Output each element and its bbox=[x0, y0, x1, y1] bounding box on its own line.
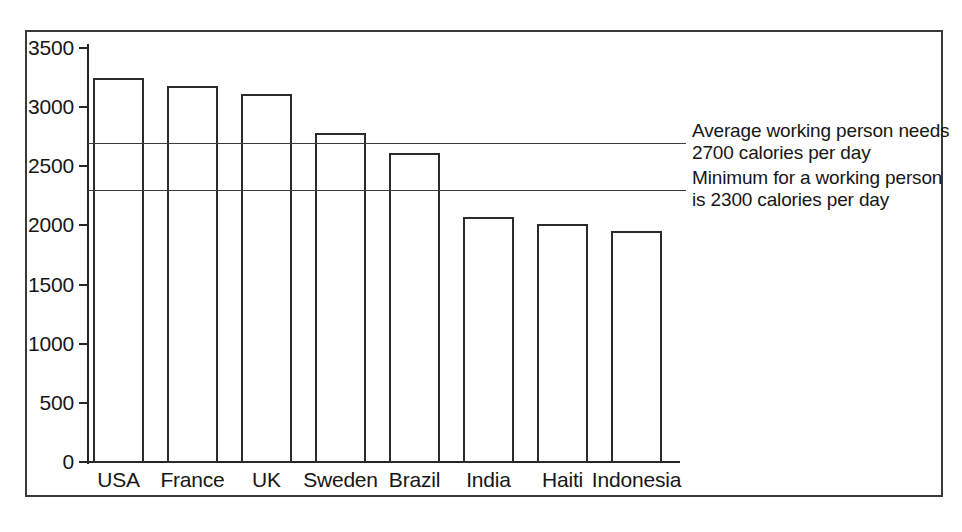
y-axis-tick-mark bbox=[79, 224, 88, 226]
bar-india bbox=[463, 217, 514, 463]
y-axis-tick-label: 2500 bbox=[16, 155, 74, 176]
y-axis-tick-label: 1500 bbox=[16, 274, 74, 295]
y-axis-tick-label-wrap: 2000 bbox=[14, 214, 74, 235]
x-axis-label-indonesia: Indonesia bbox=[577, 468, 697, 492]
bar-uk bbox=[241, 94, 292, 463]
bar-indonesia bbox=[611, 231, 662, 463]
plot-area: 0500100015002000250030003500 USAFranceUK… bbox=[0, 0, 962, 532]
y-axis-tick-mark bbox=[79, 284, 88, 286]
y-axis-tick-mark bbox=[79, 343, 88, 345]
y-axis-tick-label-wrap: 1000 bbox=[14, 333, 74, 354]
y-axis-tick-label: 3500 bbox=[16, 37, 74, 58]
bar-brazil bbox=[389, 153, 440, 463]
y-axis-tick-label: 500 bbox=[16, 392, 74, 413]
y-axis-tick-label-wrap: 3000 bbox=[14, 96, 74, 117]
y-axis-tick-label-wrap: 500 bbox=[14, 392, 74, 413]
bar-sweden bbox=[315, 133, 366, 463]
y-axis-tick-mark bbox=[79, 165, 88, 167]
bar-usa bbox=[93, 78, 144, 463]
reference-line-minimum-working-person bbox=[88, 190, 686, 191]
y-axis-tick-label: 3000 bbox=[16, 96, 74, 117]
annotation-minimum-working-person: Minimum for a working person is 2300 cal… bbox=[692, 167, 942, 212]
reference-line-average-working-person bbox=[88, 143, 686, 144]
y-axis-tick-mark bbox=[79, 106, 88, 108]
y-axis-tick-label: 1000 bbox=[16, 333, 74, 354]
y-axis-tick-mark bbox=[79, 402, 88, 404]
y-axis-tick-label-wrap: 3500 bbox=[14, 37, 74, 58]
y-axis-tick-mark bbox=[79, 461, 88, 463]
y-axis-tick-label: 2000 bbox=[16, 214, 74, 235]
figure: 0500100015002000250030003500 USAFranceUK… bbox=[0, 0, 962, 532]
y-axis-tick-label-wrap: 2500 bbox=[14, 155, 74, 176]
y-axis-tick-mark bbox=[79, 47, 88, 49]
annotation-average-working-person: Average working person needs 2700 calori… bbox=[692, 120, 949, 165]
y-axis-tick-label-wrap: 1500 bbox=[14, 274, 74, 295]
bar-haiti bbox=[537, 224, 588, 463]
